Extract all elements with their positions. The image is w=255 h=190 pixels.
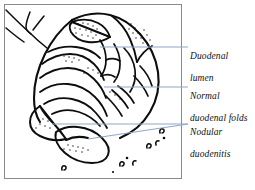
stray-nodule-dots: [112, 137, 165, 173]
ink-linework: [6, 10, 165, 173]
label-duodenal-lumen: Duodenal lumen: [190, 40, 228, 84]
label-normal-folds-line1: Normal: [190, 91, 220, 101]
figure-page: Duodenal lumen Normal duodenal folds Nod…: [0, 0, 255, 190]
bottom-nodular-mass: [55, 127, 108, 163]
label-duodenal-lumen-line1: Duodenal: [190, 51, 228, 61]
right-fold-bundle: [106, 66, 152, 116]
label-nodular-duodenitis: Nodular duodenitis: [190, 116, 231, 160]
duodenal-lumen-opening: [100, 40, 135, 92]
upper-left-folds: [6, 10, 47, 48]
label-nodular-line1: Nodular: [190, 127, 222, 137]
upper-nodular-mass: [70, 20, 110, 42]
label-nodular-line2: duodenitis: [190, 149, 231, 159]
top-right-lobe: [112, 16, 152, 62]
duodenal-folds: [40, 47, 107, 128]
